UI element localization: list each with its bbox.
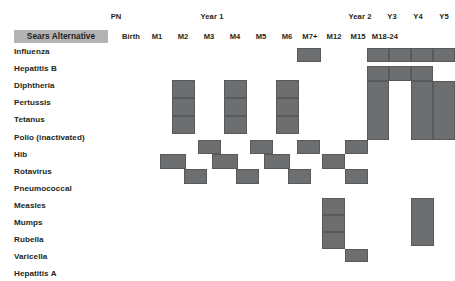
schedule-cell-diphtheria-y4 [411, 81, 433, 140]
schedule-cell-influenza-y3 [389, 48, 411, 62]
schedule-cell-diphtheria-m1824 [367, 81, 389, 140]
schedule-cell-pneumo-m7plus [288, 169, 311, 184]
schedule-cell-hepb-y3 [389, 66, 411, 81]
schedule-cell-rotavirus-m4 [212, 154, 238, 169]
schedule-cell-varicella-m15 [345, 249, 368, 262]
schedule-cell-diphtheria-m6 [276, 80, 299, 98]
schedule-cell-hib-m15 [345, 140, 368, 154]
schedule-cell-pertussis-m6 [276, 98, 299, 116]
schedule-cell-influenza-m1824 [367, 48, 389, 62]
schedule-cell-pertussis-m4 [224, 98, 247, 116]
schedule-cell-pertussis-m2 [172, 98, 195, 116]
schedule-cell-influenza-m7plus [297, 48, 321, 62]
schedule-cell-hib-m3 [198, 140, 221, 154]
schedule-cell-diphtheria-m4 [224, 80, 247, 98]
schedule-cell-mumps-m12 [322, 215, 345, 232]
schedule-cell-influenza-y5 [433, 48, 455, 62]
schedule-cell-diphtheria-m2 [172, 80, 195, 98]
schedule-cell-pneumo-m3 [184, 169, 207, 184]
schedule-cell-tetanus-m2 [172, 116, 195, 134]
schedule-cell-tetanus-m6 [276, 116, 299, 134]
schedule-cell-hepa-y3 [411, 198, 434, 246]
schedule-cell-pneumo-m15 [345, 169, 368, 184]
schedule-cell-diphtheria-y5 [433, 81, 455, 140]
schedule-grid [0, 0, 455, 281]
schedule-cell-rotavirus-m2 [160, 154, 186, 169]
schedule-cell-rubella-m12 [322, 232, 345, 249]
schedule-cell-measles-m12 [322, 198, 345, 215]
schedule-cell-rotavirus-m12 [322, 154, 345, 169]
vaccination-schedule-chart: PNYear 1Year 2Y3Y4Y5 Sears Alternative B… [0, 0, 455, 281]
schedule-cell-rotavirus-m6 [264, 154, 290, 169]
schedule-cell-hepb-m1824 [367, 66, 389, 81]
schedule-cell-influenza-y4 [411, 48, 433, 62]
schedule-cell-hepb-y4 [411, 66, 433, 81]
schedule-cell-hib-m7plus [297, 140, 320, 154]
schedule-cell-pneumo-m5 [236, 169, 259, 184]
schedule-cell-tetanus-m4 [224, 116, 247, 134]
schedule-cell-hib-m5 [250, 140, 273, 154]
